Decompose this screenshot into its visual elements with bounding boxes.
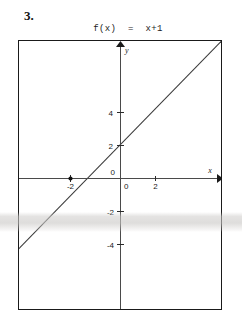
x-axis-arrow	[217, 174, 221, 183]
x-axis-label: x	[207, 166, 212, 175]
plot-frame: 4 2 0 -2 -4 -2 0 2 y x	[18, 40, 222, 310]
y-axis-arrow	[116, 41, 125, 47]
y-tick-label-0: 0	[111, 168, 116, 177]
problem-number: 3.	[24, 8, 34, 24]
data-point-marker	[68, 176, 72, 180]
x-tick-label-2: 2	[153, 182, 158, 191]
plot-title: f(x) = x+1	[0, 24, 242, 34]
graph-svg: 4 2 0 -2 -4 -2 0 2 y x	[19, 41, 221, 309]
x-tick-label-0: 0	[124, 182, 129, 191]
y-tick-label-2: 2	[109, 142, 114, 151]
y-tick-label-minus-2: -2	[107, 208, 115, 217]
y-axis-label: y	[124, 46, 129, 55]
x-tick-label-minus-2: -2	[67, 182, 75, 191]
y-tick-label-minus-4: -4	[107, 241, 115, 250]
y-tick-label-4: 4	[109, 109, 114, 118]
